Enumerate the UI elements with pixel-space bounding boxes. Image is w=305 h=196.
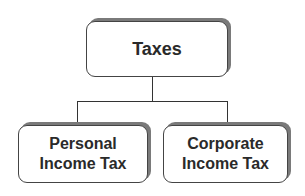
connector-horizontal: [77, 101, 228, 102]
node-personal-label-line2: Income Tax: [40, 154, 127, 174]
node-corporate-label-line2: Income Tax: [182, 154, 269, 174]
node-corporate-income-tax: Corporate Income Tax: [163, 125, 288, 183]
connector-left-drop: [77, 101, 78, 124]
connector-right-drop: [227, 101, 228, 124]
node-taxes: Taxes: [86, 21, 228, 77]
node-corporate-label-line1: Corporate: [182, 134, 269, 154]
node-personal-income-tax: Personal Income Tax: [18, 125, 148, 183]
node-taxes-label: Taxes: [132, 39, 182, 59]
node-personal-label-line1: Personal: [40, 134, 127, 154]
connector-root-stem: [152, 77, 153, 101]
